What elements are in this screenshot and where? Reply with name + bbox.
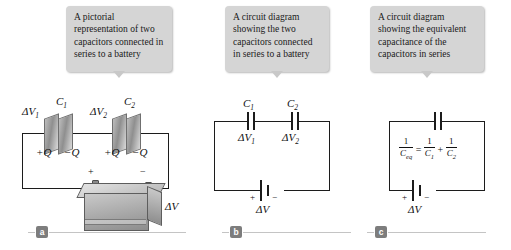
panel-b-battery-delta-v-label: ΔV [256, 203, 269, 215]
panel-a-rule-left [28, 232, 35, 233]
panel-b-battery-minus-sign: − [272, 192, 277, 202]
panel-a-charge-negative-1: −Q [64, 146, 79, 158]
panel-b-wire-right [329, 121, 330, 191]
panel-b-battery-plus-sign: + [250, 192, 255, 202]
panel-b-capacitor1-plate-left [247, 112, 249, 130]
panel-b-capacitor2-label: C2 [287, 97, 298, 112]
panel-a-caption-box: A pictorial representation of two capaci… [66, 6, 172, 72]
panel-a-delta-v1-label: ΔV1 [22, 105, 39, 120]
panel-a-delta-v2-label: ΔV2 [90, 105, 107, 120]
panel-c-wire-top-left [389, 121, 434, 122]
panel-c-wire-bottom-right [436, 190, 485, 191]
panel-c-caption-text: A circuit diagram showing the equivalent… [378, 12, 466, 59]
panel-b-marker: b [230, 226, 242, 238]
panel-a-marker: a [36, 226, 48, 238]
panel-a-rule [49, 232, 186, 233]
panel-b-capacitor1-plate-right [253, 112, 255, 130]
panel-b-capacitor2-plate-left [291, 112, 293, 130]
panel-c-battery-plate-short [419, 185, 421, 196]
panel-a-capacitor1-label: C1 [56, 95, 67, 110]
panel-a-caption-tail [113, 71, 125, 78]
panel-a-battery-case [84, 193, 149, 231]
equation-lhs-fraction: 1 Ceq [399, 137, 413, 162]
panel-b-wire-top-mid [254, 121, 291, 122]
panel-a-wire-left [22, 133, 23, 189]
panel-c-rule-left [367, 232, 374, 233]
panel-c-caption-tail [421, 71, 433, 78]
panel-b-capacitor2-plate-right [297, 112, 299, 130]
panel-b-delta-v2-label: ΔV2 [282, 131, 299, 146]
panel-a-battery-band [85, 219, 146, 225]
panel-a-battery-minus-sign: − [140, 166, 146, 177]
panel-b-caption-text: A circuit diagram showing the two capaci… [233, 12, 312, 59]
panel-a-charge-positive-2: +Q [104, 146, 119, 158]
panel-a-caption-text: A pictorial representation of two capaci… [74, 12, 163, 59]
equation-equals-sign: = [414, 144, 423, 155]
panel-c-wire-bottom-left [389, 190, 412, 191]
panel-c-battery-plus-sign: + [402, 192, 407, 202]
capacitors-in-series-figure: A pictorial representation of two capaci… [0, 0, 511, 250]
panel-b-caption-box: A circuit diagram showing the two capaci… [225, 6, 329, 72]
panel-b-wire-top-right [298, 121, 330, 122]
equation-term1-fraction: 1 C1 [424, 137, 435, 162]
panel-b-rule-left [222, 232, 229, 233]
panel-b-delta-v1-label: ΔV1 [238, 131, 255, 146]
panel-c-caption-box: A circuit diagram showing the equivalent… [370, 6, 484, 72]
panel-a-battery-delta-v-label: ΔV [165, 200, 178, 212]
panel-a-charge-positive-1: +Q [36, 146, 51, 158]
panel-c-battery-minus-sign: − [424, 192, 429, 202]
panel-b-caption-tail [271, 71, 283, 78]
panel-c-battery-plate-long [412, 180, 414, 201]
panel-b-rule [243, 232, 351, 233]
panel-b-battery-plate-long [260, 180, 262, 201]
panel-c-rule [388, 232, 486, 233]
panel-c-capacitor-plate-left [434, 112, 436, 130]
panel-a-battery-plus-sign: + [88, 166, 94, 177]
panel-c-wire-top-right [441, 121, 485, 122]
panel-b-wire-top-left [214, 121, 247, 122]
equation-plus-sign: + [436, 144, 445, 155]
panel-c-battery-delta-v-label: ΔV [408, 203, 421, 215]
panel-a-capacitor2-label: C2 [124, 95, 135, 110]
panel-c-equivalent-capacitance-equation: 1 Ceq = 1 C1 + 1 C2 [398, 137, 458, 162]
panel-a-battery-side [147, 186, 162, 226]
panel-c-wire-right [484, 121, 485, 191]
panel-b-capacitor1-label: C1 [243, 97, 254, 112]
panel-c-capacitor-plate-right [440, 112, 442, 130]
panel-c-wire-left [389, 121, 390, 191]
panel-b-wire-left [214, 121, 215, 191]
panel-c-marker: c [375, 226, 387, 238]
panel-a-charge-negative-2: −Q [132, 146, 147, 158]
panel-b-wire-bottom-right [284, 190, 330, 191]
panel-a-wire-right [168, 133, 169, 189]
equation-term2-fraction: 1 C2 [446, 137, 457, 162]
panel-b-battery-plate-short [267, 185, 269, 196]
